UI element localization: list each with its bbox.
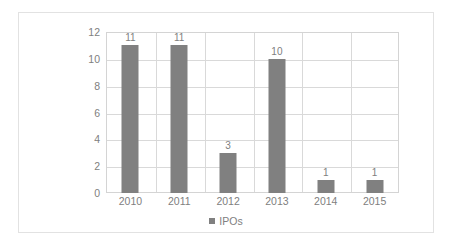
y-axis-tick-label: 0: [94, 188, 100, 199]
bar-slot: 10: [253, 32, 302, 193]
x-axis-tick-label: 2010: [119, 196, 142, 207]
bar-slot: 11: [106, 32, 155, 193]
bar[interactable]: [268, 59, 285, 193]
x-axis-tick-label: 2012: [216, 196, 239, 207]
y-axis-tick-label: 8: [94, 80, 100, 91]
bar-slot: 11: [155, 32, 204, 193]
x-axis-tick-label: 2011: [168, 196, 191, 207]
y-axis: 024681012: [67, 32, 100, 193]
x-axis-tick-label: 2013: [265, 196, 288, 207]
bar-slot: 1: [350, 32, 399, 193]
legend-swatch-icon: [209, 218, 215, 224]
bar-value-label: 10: [271, 47, 282, 57]
bar[interactable]: [366, 180, 383, 193]
bar-slot: 3: [204, 32, 253, 193]
y-axis-tick-label: 2: [94, 161, 100, 172]
bar-value-label: 11: [125, 33, 135, 43]
x-axis-tick-label: 2015: [363, 196, 386, 207]
x-axis: 201020112012201320142015: [106, 196, 399, 212]
bar[interactable]: [171, 45, 188, 193]
chart-frame: 024681012 111131011 20102011201220132014…: [18, 12, 434, 233]
bar[interactable]: [220, 153, 237, 193]
x-axis-tick-label: 2014: [314, 196, 337, 207]
y-axis-tick-label: 12: [88, 27, 100, 38]
bar-value-label: 1: [372, 168, 378, 178]
bar[interactable]: [317, 180, 334, 193]
bar-value-label: 3: [225, 141, 231, 151]
bar-series-ipos: 111131011: [106, 32, 399, 193]
bar[interactable]: [122, 45, 139, 193]
bar-slot: 1: [301, 32, 350, 193]
chart-legend: IPOs: [19, 216, 433, 227]
y-axis-tick-label: 4: [94, 134, 100, 145]
y-axis-tick-label: 6: [94, 107, 100, 118]
legend-label-ipos: IPOs: [219, 216, 242, 227]
bar-value-label: 11: [174, 33, 184, 43]
y-axis-tick-label: 10: [88, 54, 100, 65]
bar-value-label: 1: [323, 168, 329, 178]
